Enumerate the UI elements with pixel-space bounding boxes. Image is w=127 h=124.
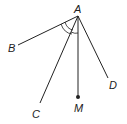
angle-arc-bac-inner: [65, 22, 73, 30]
segment-ab: [18, 16, 78, 45]
segment-ac: [40, 16, 78, 103]
label-b: B: [8, 42, 15, 54]
segment-ad: [78, 16, 108, 78]
geometry-figure: A B C M D: [0, 0, 127, 124]
label-m: M: [74, 102, 84, 114]
label-d: D: [109, 79, 117, 91]
angle-arc-cam: [71, 32, 78, 33]
point-m-dot: [76, 95, 80, 99]
label-a: A: [73, 3, 81, 15]
label-c: C: [32, 108, 40, 120]
